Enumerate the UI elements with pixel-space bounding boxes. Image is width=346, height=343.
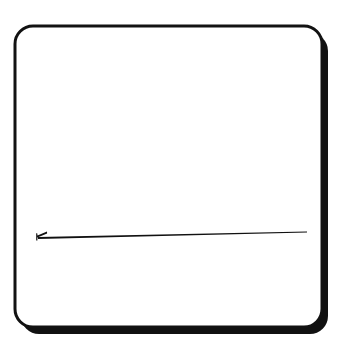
pictogram-canvas <box>0 0 346 343</box>
card-frame <box>15 26 322 327</box>
pictogram-svg <box>0 0 346 343</box>
